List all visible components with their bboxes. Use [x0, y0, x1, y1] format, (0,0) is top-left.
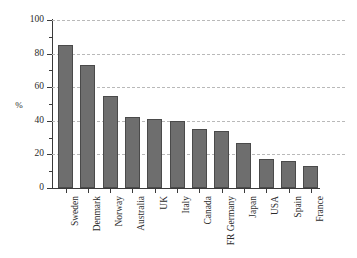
bar — [103, 96, 118, 188]
x-axis-tick — [266, 189, 267, 193]
x-axis-category-label: Japan — [248, 196, 258, 218]
x-axis-tick — [155, 189, 156, 193]
x-axis-tick — [88, 189, 89, 193]
bar — [259, 159, 274, 188]
bar — [303, 166, 318, 188]
x-axis-category-label: France — [315, 196, 325, 222]
bar — [125, 117, 140, 188]
x-axis-tick — [132, 189, 133, 193]
x-axis-category-label: Sweden — [70, 196, 80, 226]
x-axis-category-label: Denmark — [92, 196, 102, 231]
plot-area — [52, 20, 345, 188]
gridline — [52, 87, 345, 88]
bar — [236, 143, 251, 188]
bar — [192, 129, 207, 188]
x-axis-tick — [289, 189, 290, 193]
x-axis-category-label: USA — [270, 196, 280, 215]
x-axis-tick — [66, 189, 67, 193]
bar — [214, 131, 229, 188]
x-axis-category-label: UK — [159, 196, 169, 210]
y-axis-tick-label: 0 — [4, 183, 44, 192]
x-axis-category-label: Italy — [181, 196, 191, 213]
x-axis-tick — [199, 189, 200, 193]
y-axis-tick-label: 60 — [4, 82, 44, 91]
x-axis-category-label: Australia — [136, 196, 146, 231]
bar — [281, 161, 296, 188]
bar — [80, 65, 95, 188]
y-axis-tick-label: 80 — [4, 49, 44, 58]
x-axis-category-label: FR Germany — [226, 196, 236, 245]
gridline — [52, 54, 345, 55]
x-axis-tick — [110, 189, 111, 193]
x-axis-tick — [244, 189, 245, 193]
bar — [147, 119, 162, 188]
x-axis-category-label: Norway — [114, 196, 124, 227]
x-axis-tick — [177, 189, 178, 193]
y-axis-tick — [47, 188, 52, 189]
y-axis-tick-label: 100 — [4, 15, 44, 24]
gridline — [52, 121, 345, 122]
x-axis-tick — [311, 189, 312, 193]
y-axis-title: % — [10, 100, 28, 110]
bar-chart-figure: % 020406080100 SwedenDenmarkNorwayAustra… — [0, 0, 357, 258]
bar — [170, 121, 185, 188]
gridline — [52, 20, 345, 21]
x-axis-category-label: Canada — [203, 196, 213, 225]
x-axis-category-label: Spain — [293, 196, 303, 218]
y-axis-tick-label: 20 — [4, 149, 44, 158]
x-axis-tick — [222, 189, 223, 193]
y-axis-tick-label: 40 — [4, 116, 44, 125]
x-axis-spine — [52, 188, 320, 189]
bar — [58, 45, 73, 188]
